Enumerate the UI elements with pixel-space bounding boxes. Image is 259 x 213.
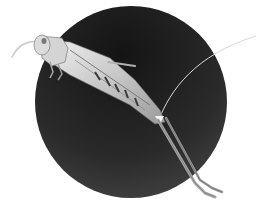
grasshopper-illustration: [0, 0, 259, 213]
illustration: Grasshopper photographed in profile, lea…: [0, 0, 259, 213]
grasshopper-head: [34, 35, 50, 55]
grasshopper-eye: [42, 38, 47, 44]
